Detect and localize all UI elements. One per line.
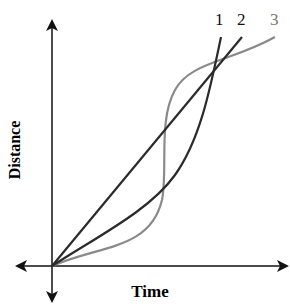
curve-2-label: 2 (237, 10, 246, 30)
curve-3-label: 3 (270, 10, 279, 30)
curve-1-label: 1 (215, 10, 224, 30)
x-axis-label: Time (131, 282, 168, 302)
distance-time-graph (0, 0, 290, 308)
y-axis-label: Distance (6, 121, 24, 180)
curve-3 (52, 37, 275, 266)
